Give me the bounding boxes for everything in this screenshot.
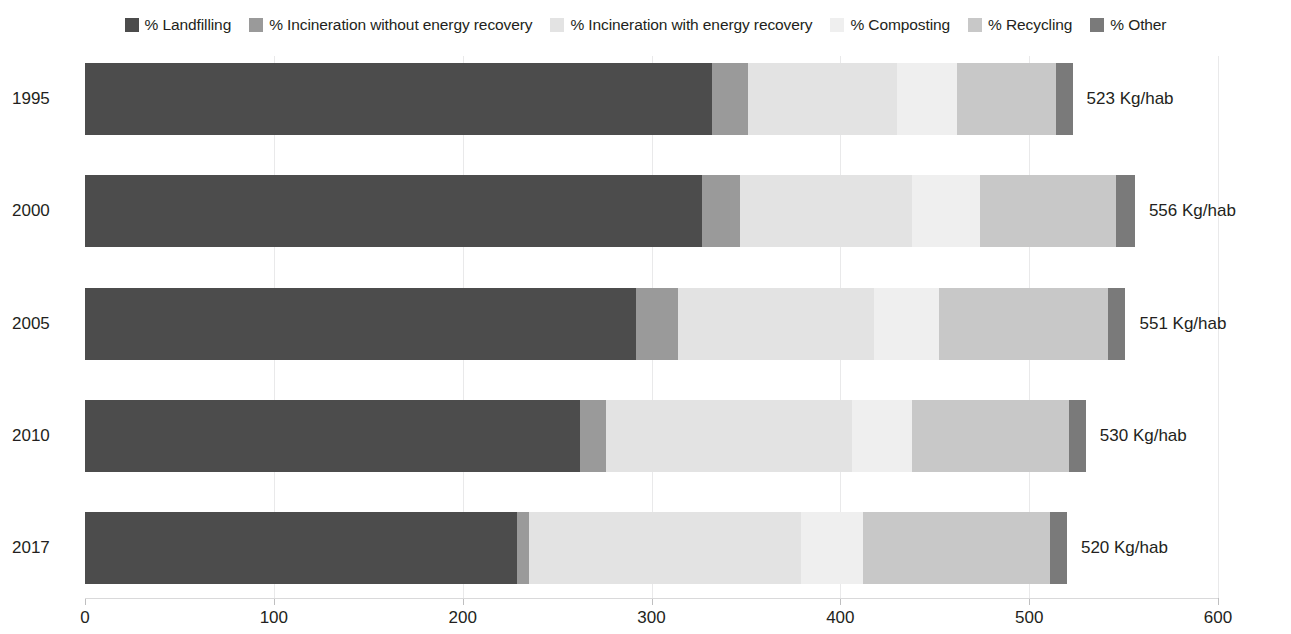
y-axis-label-2000: 2000 — [12, 201, 50, 221]
x-axis-tick-label-200: 200 — [448, 608, 476, 628]
bar-segment-2017-series-2[interactable] — [529, 512, 801, 584]
bar-total-label-2000: 556 Kg/hab — [1149, 201, 1236, 221]
bar-2000[interactable] — [85, 175, 1135, 247]
y-axis-label-1995: 1995 — [12, 89, 50, 109]
x-axis-tickmark-300 — [652, 598, 653, 605]
bar-segment-2017-series-5[interactable] — [1050, 512, 1067, 584]
y-axis-label-2005: 2005 — [12, 314, 50, 334]
x-axis-tickmark-100 — [274, 598, 275, 605]
bar-segment-2005-series-5[interactable] — [1108, 288, 1125, 360]
y-axis-label-2010: 2010 — [12, 426, 50, 446]
bar-segment-2000-series-0[interactable] — [85, 175, 702, 247]
bar-segment-2005-series-1[interactable] — [636, 288, 678, 360]
bar-segment-2000-series-3[interactable] — [912, 175, 980, 247]
bar-segment-1995-series-1[interactable] — [712, 63, 748, 135]
bar-segment-2000-series-2[interactable] — [740, 175, 912, 247]
bar-2017[interactable] — [85, 512, 1067, 584]
bar-segment-1995-series-4[interactable] — [957, 63, 1055, 135]
bar-segment-2010-series-1[interactable] — [580, 400, 606, 472]
plot-area: 01002003004005006001995523 Kg/hab2000556… — [0, 0, 1291, 634]
bar-segment-2017-series-1[interactable] — [517, 512, 528, 584]
bar-total-label-1995: 523 Kg/hab — [1087, 89, 1174, 109]
y-axis-label-2017: 2017 — [12, 538, 50, 558]
x-axis-tick-label-100: 100 — [260, 608, 288, 628]
bar-segment-2005-series-0[interactable] — [85, 288, 636, 360]
bar-segment-2010-series-2[interactable] — [606, 400, 851, 472]
x-axis-tickmark-600 — [1218, 598, 1219, 605]
bar-2010[interactable] — [85, 400, 1086, 472]
bar-segment-2000-series-5[interactable] — [1116, 175, 1135, 247]
bar-segment-2005-series-2[interactable] — [678, 288, 874, 360]
x-axis-tick-label-0: 0 — [80, 608, 89, 628]
bar-segment-2017-series-0[interactable] — [85, 512, 517, 584]
bar-segment-2017-series-4[interactable] — [863, 512, 1050, 584]
bar-total-label-2017: 520 Kg/hab — [1081, 538, 1168, 558]
bar-segment-2010-series-0[interactable] — [85, 400, 580, 472]
x-axis-tick-label-500: 500 — [1015, 608, 1043, 628]
x-axis-tickmark-400 — [840, 598, 841, 605]
stacked-bar-chart: % Landfilling% Incineration without ener… — [0, 0, 1291, 634]
bar-2005[interactable] — [85, 288, 1125, 360]
x-axis-baseline — [85, 598, 1218, 599]
bar-segment-1995-series-5[interactable] — [1056, 63, 1073, 135]
x-axis-tick-label-400: 400 — [826, 608, 854, 628]
bar-segment-2010-series-4[interactable] — [912, 400, 1069, 472]
bar-total-label-2010: 530 Kg/hab — [1100, 426, 1187, 446]
x-axis-tickmark-0 — [85, 598, 86, 605]
bar-segment-2017-series-3[interactable] — [801, 512, 863, 584]
x-axis-tick-label-300: 300 — [637, 608, 665, 628]
x-axis-tick-label-600: 600 — [1204, 608, 1232, 628]
bar-segment-2005-series-4[interactable] — [939, 288, 1109, 360]
bar-segment-2000-series-4[interactable] — [980, 175, 1116, 247]
bar-segment-1995-series-3[interactable] — [897, 63, 957, 135]
bar-total-label-2005: 551 Kg/hab — [1139, 314, 1226, 334]
bar-segment-1995-series-0[interactable] — [85, 63, 712, 135]
bar-segment-2005-series-3[interactable] — [874, 288, 938, 360]
x-axis-tickmark-200 — [463, 598, 464, 605]
bar-segment-2010-series-5[interactable] — [1069, 400, 1086, 472]
bar-1995[interactable] — [85, 63, 1073, 135]
bar-segment-2000-series-1[interactable] — [702, 175, 740, 247]
bar-segment-2010-series-3[interactable] — [852, 400, 912, 472]
bar-segment-1995-series-2[interactable] — [748, 63, 897, 135]
x-axis-tickmark-500 — [1029, 598, 1030, 605]
